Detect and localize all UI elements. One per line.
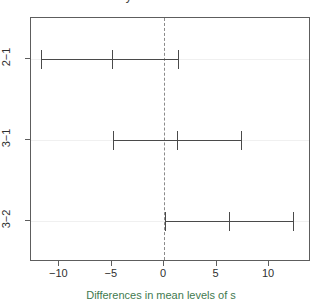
x-axis-tick bbox=[216, 261, 217, 266]
plot-inner bbox=[31, 18, 309, 260]
x-axis-tick-label: −10 bbox=[49, 267, 68, 279]
plot-area bbox=[30, 17, 310, 261]
x-axis-tick bbox=[111, 261, 112, 266]
x-axis-tick bbox=[163, 261, 164, 266]
interval-lower-cap bbox=[41, 50, 42, 69]
x-axis-tick-label: −5 bbox=[104, 267, 117, 279]
y-axis-tick-label: 2−1 bbox=[0, 42, 12, 72]
y-axis-tick bbox=[25, 220, 30, 221]
interval-line bbox=[41, 59, 178, 60]
x-axis-tick-label: 5 bbox=[213, 267, 219, 279]
x-axis-tick-label: 10 bbox=[262, 267, 274, 279]
y-axis-tick bbox=[25, 58, 30, 59]
plot-title-cropped: 95% family-wise confidence level bbox=[0, 0, 322, 7]
y-axis-tick-label: 3−1 bbox=[0, 123, 12, 153]
x-axis-tick bbox=[268, 261, 269, 266]
y-axis-tick-label: 3−2 bbox=[0, 204, 12, 234]
interval-center-mark bbox=[229, 212, 230, 231]
x-axis-tick bbox=[58, 261, 59, 266]
interval-upper-cap bbox=[293, 212, 294, 231]
interval-center-mark bbox=[112, 50, 113, 69]
interval-center-mark bbox=[177, 131, 178, 150]
plot-title: 95% family-wise confidence level bbox=[0, 0, 322, 3]
interval-upper-cap bbox=[241, 131, 242, 150]
x-axis-tick-label: 0 bbox=[160, 267, 166, 279]
tukey-hsd-plot: 95% family-wise confidence level −10−505… bbox=[0, 0, 322, 308]
interval-lower-cap bbox=[113, 131, 114, 150]
x-axis-label: Differences in mean levels of s bbox=[0, 289, 322, 301]
y-axis-tick bbox=[25, 139, 30, 140]
interval-upper-cap bbox=[178, 50, 179, 69]
interval-lower-cap bbox=[165, 212, 166, 231]
